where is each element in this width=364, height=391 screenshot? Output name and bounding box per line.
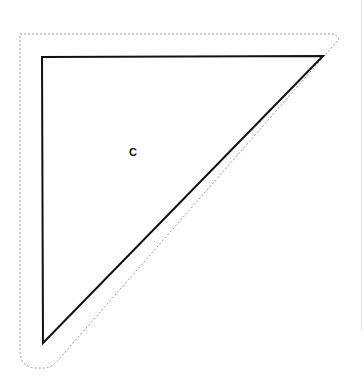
triangle-shape [42, 56, 323, 343]
triangle-diagram: C [0, 0, 364, 391]
shape-label: C [129, 146, 137, 158]
